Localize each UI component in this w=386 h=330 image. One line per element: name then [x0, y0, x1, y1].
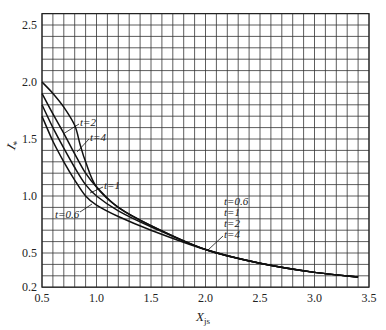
y-tick-label: 2.0 [22, 75, 37, 89]
y-tick-label: 1.5 [22, 132, 37, 146]
x-tick-label: 1.5 [144, 291, 159, 305]
y-tick-label: 2.5 [22, 18, 37, 32]
annotation-label: t=1 [104, 179, 120, 191]
curves [42, 82, 358, 277]
leader-line [208, 236, 223, 250]
y-tick-label: 1.0 [22, 189, 37, 203]
x-tick-label: 2.5 [253, 291, 268, 305]
chart: 0.51.01.52.02.53.03.5 0.20.51.01.52.02.5… [0, 0, 386, 330]
y-tick-labels: 0.20.51.01.52.02.5 [22, 18, 37, 294]
annotation-label: t=2 [80, 116, 96, 128]
annotation-label: t=4 [224, 228, 240, 240]
x-tick-label: 3.0 [307, 291, 322, 305]
annotation-label: t=4 [90, 131, 106, 143]
y-tick-label: 0.5 [22, 246, 37, 260]
y-axis-label: I* [3, 138, 23, 154]
grid [42, 14, 369, 288]
x-tick-label: 3.5 [362, 291, 377, 305]
x-tick-label: 2.0 [198, 291, 213, 305]
annotation-label: t=0.6 [55, 208, 80, 220]
y-tick-label: 0.2 [22, 280, 37, 294]
x-tick-labels: 0.51.01.52.02.53.03.5 [35, 291, 377, 305]
x-axis-label: Xjs [195, 309, 210, 326]
x-tick-label: 1.0 [89, 291, 104, 305]
